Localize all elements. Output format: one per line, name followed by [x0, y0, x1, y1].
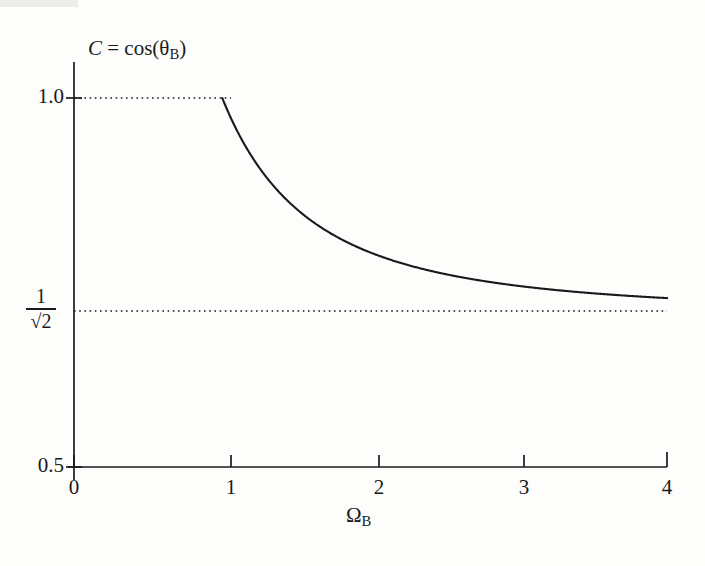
- y-axis-title-subscript: B: [169, 46, 179, 62]
- x-axis-title-omega: Ω: [346, 503, 362, 527]
- data-curve-cos-theta-b: [222, 98, 667, 298]
- x-tick-label-0: 0: [54, 477, 94, 498]
- y-axis-title-close-paren: ): [179, 36, 186, 60]
- y-tick-label-one-over-sqrt-two: 1 √2: [18, 286, 64, 331]
- y-tick-label-0-5: 0.5: [6, 455, 64, 476]
- x-tick-label-4: 4: [647, 477, 687, 498]
- figure-panel: C = cos(θB) ΩB 1.0 1 √2 0.5 0 1 2 3 4: [0, 0, 705, 566]
- x-tick-label-3: 3: [504, 477, 544, 498]
- fraction-denominator: √2: [27, 310, 56, 331]
- y-axis-title-variable: C: [88, 36, 102, 60]
- y-axis-title: C = cos(θB): [88, 38, 186, 62]
- x-axis-title-subscript: B: [362, 513, 372, 529]
- fraction-numerator: 1: [31, 286, 51, 307]
- y-tick-label-1-0: 1.0: [6, 86, 64, 107]
- x-axis-title: ΩB: [346, 505, 371, 529]
- y-axis-title-theta: θ: [159, 36, 169, 60]
- y-axis-title-equals: = cos(: [102, 36, 159, 60]
- x-tick-label-2: 2: [359, 477, 399, 498]
- chart-plot-area: [0, 0, 705, 566]
- x-tick-label-1: 1: [211, 477, 251, 498]
